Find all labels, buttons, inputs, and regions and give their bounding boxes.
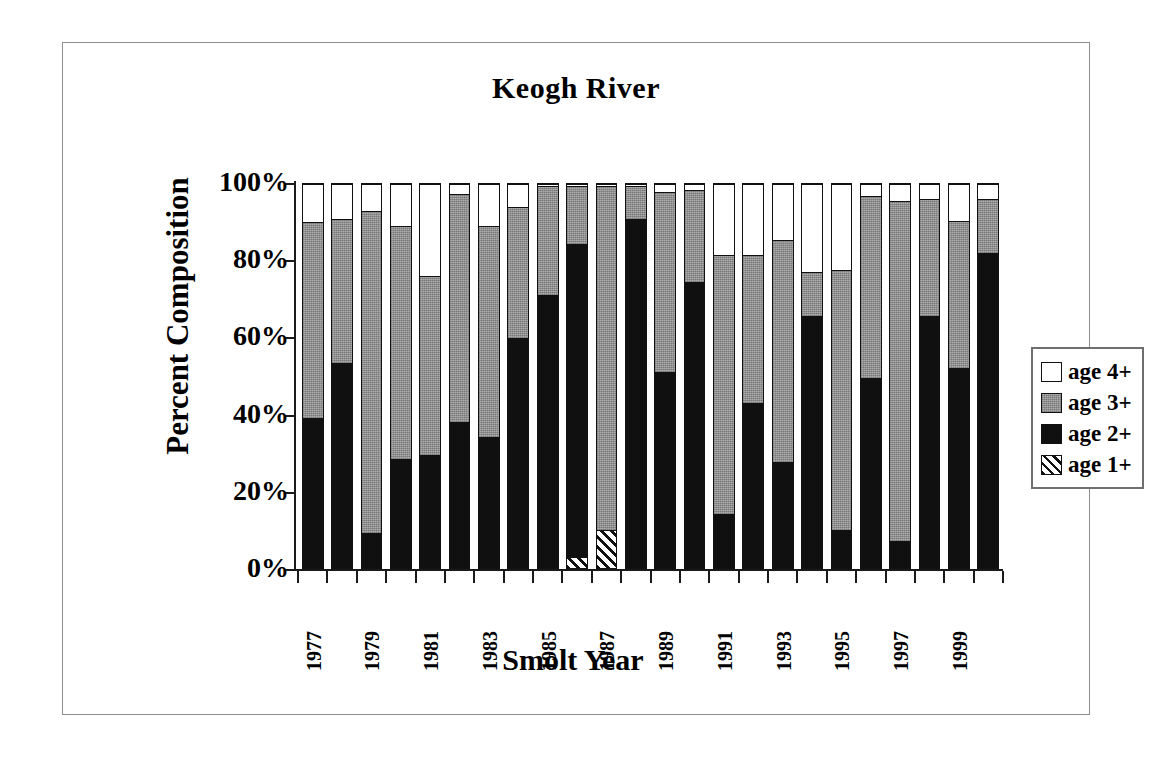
x-tick-mark: [767, 571, 769, 583]
bar-segment-age2: [538, 295, 558, 568]
bar-segment-age2: [362, 533, 382, 568]
bar-segment-age4: [949, 184, 969, 220]
y-axis-title: Percent Composition: [160, 106, 196, 526]
bar-segment-age2: [450, 422, 470, 568]
bar-segment-age3: [420, 276, 440, 455]
bar-1996[interactable]: [860, 183, 882, 569]
x-tick-label-1989: 1989: [655, 631, 678, 671]
bar-1978[interactable]: [331, 183, 353, 569]
bar-1989[interactable]: [654, 183, 676, 569]
bar-1981[interactable]: [419, 183, 441, 569]
legend-item-age2[interactable]: age 2+: [1041, 418, 1132, 449]
legend-item-age1[interactable]: age 1+: [1041, 449, 1132, 480]
x-tick-label-1995: 1995: [831, 631, 854, 671]
bar-segment-age3: [567, 186, 587, 244]
y-tick-label: 0%: [247, 552, 289, 584]
legend-item-age3[interactable]: age 3+: [1041, 387, 1132, 418]
bar-1985[interactable]: [537, 183, 559, 569]
x-tick-mark: [444, 571, 446, 583]
bar-1990[interactable]: [684, 183, 706, 569]
bar-segment-age3: [362, 211, 382, 534]
bar-segment-age2: [303, 418, 323, 568]
legend: age 4+age 3+age 2+age 1+: [1031, 347, 1144, 489]
x-tick-mark: [473, 571, 475, 583]
bar-segment-age4: [890, 184, 910, 201]
bar-1986[interactable]: [566, 183, 588, 569]
bar-1984[interactable]: [507, 183, 529, 569]
bar-segment-age4: [303, 184, 323, 222]
x-tick-mark: [415, 571, 417, 583]
gray-square-icon: [1041, 393, 1062, 413]
bar-1994[interactable]: [801, 183, 823, 569]
bar-segment-age2: [567, 244, 587, 557]
y-axis-line: [294, 181, 296, 571]
white-square-icon: [1041, 362, 1062, 382]
bar-segment-age2: [685, 282, 705, 568]
hatched-square-icon: [1041, 455, 1062, 475]
x-tick-label-1979: 1979: [361, 631, 384, 671]
bar-segment-age3: [391, 226, 411, 458]
bar-segment-age3: [802, 272, 822, 316]
bar-segment-age2: [508, 338, 528, 568]
bar-segment-age3: [685, 190, 705, 282]
y-tick-label: 100%: [219, 166, 289, 198]
bar-segment-age3: [626, 186, 646, 219]
x-tick-mark: [738, 571, 740, 583]
bar-segment-age3: [890, 201, 910, 541]
bar-1983[interactable]: [478, 183, 500, 569]
bar-segment-age3: [538, 186, 558, 295]
bar-1997[interactable]: [889, 183, 911, 569]
legend-item-label: age 1+: [1068, 453, 1132, 476]
bar-segment-age2: [861, 378, 881, 568]
x-tick-mark: [1002, 571, 1004, 583]
bar-segment-age3: [743, 255, 763, 403]
bar-segment-age4: [714, 184, 734, 255]
x-axis-line: [294, 569, 1003, 571]
bar-1992[interactable]: [742, 183, 764, 569]
bar-1998[interactable]: [919, 183, 941, 569]
bar-segment-age4: [832, 184, 852, 270]
bar-segment-age3: [332, 219, 352, 363]
bar-1977[interactable]: [302, 183, 324, 569]
x-tick-mark: [620, 571, 622, 583]
bar-segment-age3: [920, 199, 940, 316]
bar-segment-age2: [420, 455, 440, 568]
y-tick-label: 40%: [233, 398, 289, 430]
x-tick-mark: [561, 571, 563, 583]
bar-segment-age4: [420, 184, 440, 276]
bar-segment-age3: [655, 192, 675, 372]
x-tick-mark: [326, 571, 328, 583]
black-square-icon: [1041, 424, 1062, 444]
x-tick-mark: [914, 571, 916, 583]
bar-segment-age2: [626, 219, 646, 568]
bar-segment-age2: [391, 459, 411, 568]
bar-segment-age2: [773, 462, 793, 568]
bar-segment-age2: [978, 253, 998, 568]
bar-segment-age2: [832, 530, 852, 568]
bar-1987[interactable]: [596, 183, 618, 569]
x-tick-label-1981: 1981: [420, 631, 443, 671]
bar-segment-age3: [450, 194, 470, 422]
bar-segment-age4: [920, 184, 940, 199]
bar-1999[interactable]: [948, 183, 970, 569]
x-tick-mark: [885, 571, 887, 583]
bar-segment-age2: [949, 368, 969, 568]
x-tick-mark: [650, 571, 652, 583]
bar-1991[interactable]: [713, 183, 735, 569]
x-tick-label-1997: 1997: [890, 631, 913, 671]
x-tick-mark: [591, 571, 593, 583]
x-tick-mark: [796, 571, 798, 583]
bar-segment-age4: [508, 184, 528, 207]
bar-segment-age3: [978, 199, 998, 253]
legend-item-age4[interactable]: age 4+: [1041, 356, 1132, 387]
bar-1988[interactable]: [625, 183, 647, 569]
bar-1993[interactable]: [772, 183, 794, 569]
bar-segment-age2: [479, 437, 499, 568]
bar-1979[interactable]: [361, 183, 383, 569]
x-tick-mark: [503, 571, 505, 583]
bar-1995[interactable]: [831, 183, 853, 569]
y-tick-label: 80%: [233, 243, 289, 275]
bar-2000[interactable]: [977, 183, 999, 569]
bar-1982[interactable]: [449, 183, 471, 569]
bar-1980[interactable]: [390, 183, 412, 569]
